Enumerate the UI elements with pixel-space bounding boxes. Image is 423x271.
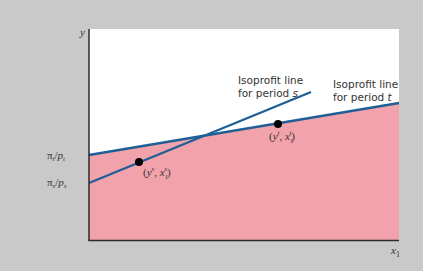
isoprofit-diagram: y x1 πt/pt πs/ps (ys, x1s) (yt, x1t) Iso… xyxy=(0,0,423,271)
annotation-line-s: Isoprofit line for period s xyxy=(238,74,307,99)
intercept-label-t: πt/pt xyxy=(47,149,66,163)
annotation-line-t: Isoprofit line for period t xyxy=(333,78,402,103)
y-axis-label: y xyxy=(79,26,85,38)
intercept-label-s: πs/ps xyxy=(47,176,67,190)
optimal-point-period-s xyxy=(135,158,143,166)
optimal-point-period-t xyxy=(274,120,282,128)
x-axis-label: x1 xyxy=(390,244,400,259)
